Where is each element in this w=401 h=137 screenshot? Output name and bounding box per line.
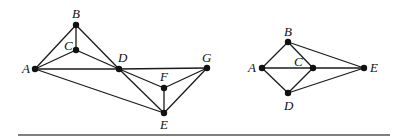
left-graph-edge-DE	[119, 69, 164, 113]
right-graph-node-A	[259, 65, 265, 71]
left-graph-label-F: F	[159, 69, 169, 84]
left-graph-edge-CD	[76, 50, 119, 69]
left-graph-node-A	[32, 66, 38, 72]
right-graph-label-A: A	[247, 60, 256, 75]
left-graph-label-G: G	[202, 50, 212, 65]
right-graph-label-C: C	[294, 54, 303, 69]
right-graph-label-E: E	[369, 60, 378, 75]
right-graph-edge-AB	[262, 42, 288, 68]
left-graph-node-G	[204, 65, 210, 71]
left-graph-edge-AE	[35, 69, 164, 113]
right-graph-label-B: B	[284, 24, 292, 39]
right-graph-node-B	[285, 39, 291, 45]
right-graph-node-E	[361, 65, 367, 71]
left-graph-node-F	[161, 85, 167, 91]
left-graph-label-B: B	[72, 6, 80, 21]
left-graph-label-C: C	[64, 38, 73, 53]
left-graph-node-E	[161, 110, 167, 116]
left-graph-edge-BD	[76, 25, 119, 69]
left-graph-node-D	[116, 66, 122, 72]
left-graph-label-E: E	[159, 117, 168, 132]
right-graph-node-D	[285, 90, 291, 96]
left-graph-edge-FG	[164, 68, 207, 88]
graph-diagram: ABCDFGEABCDE	[0, 0, 401, 137]
left-graph-node-B	[73, 22, 79, 28]
left-graph-label-A: A	[21, 61, 30, 76]
left-graph-edge-GE	[164, 68, 207, 113]
right-graph-label-D: D	[283, 98, 294, 113]
left-graph-edge-DF	[119, 69, 164, 88]
right-graph-edge-AD	[262, 68, 288, 93]
left-graph-node-C	[73, 47, 79, 53]
right-graph-edge-DE	[288, 68, 364, 93]
right-graph-node-C	[310, 65, 316, 71]
left-graph-label-D: D	[117, 50, 128, 65]
